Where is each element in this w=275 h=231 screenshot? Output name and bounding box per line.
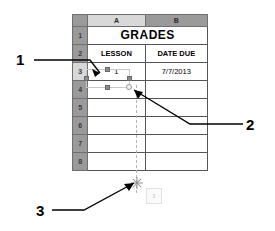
drag-ghost-preview: 1 [146,188,162,204]
cell-b3-date-value[interactable]: 7/7/2013 [145,63,207,81]
table-row: 8 [73,153,208,171]
row-header-2[interactable]: 2 [73,45,88,63]
callout-number-2: 2 [246,117,254,132]
cell-b2-date-due[interactable]: DATE DUE [145,45,207,63]
column-header-row: A B [73,15,208,27]
table-row: 2 LESSON DATE DUE [73,45,208,63]
cell-b4[interactable] [145,81,207,99]
callout-number-3: 3 [36,203,44,218]
cell-a2-lesson[interactable]: LESSON [88,45,145,63]
table-row: 7 [73,135,208,153]
table-row: 4 [73,81,208,99]
cell-b7[interactable] [145,135,207,153]
leader-line-3 [52,183,134,210]
cell-b8[interactable] [145,153,207,171]
row-header-7[interactable]: 7 [73,135,88,153]
table-row: 1 GRADES [73,27,208,45]
cell-a3-lesson-value[interactable]: 1 [88,63,145,81]
column-header-a[interactable]: A [88,15,145,27]
illustration-canvas: A B 1 GRADES 2 LESSON DATE DUE 3 1 7/7/2… [0,0,275,231]
row-header-5[interactable]: 5 [73,99,88,117]
table-row: 3 1 7/7/2013 [73,63,208,81]
row-header-1[interactable]: 1 [73,27,88,45]
cell-a1-title[interactable]: GRADES [88,27,208,45]
table-row: 6 [73,117,208,135]
select-all-corner[interactable] [73,15,88,27]
cell-b5[interactable] [145,99,207,117]
row-header-6[interactable]: 6 [73,117,88,135]
spreadsheet-grid[interactable]: A B 1 GRADES 2 LESSON DATE DUE 3 1 7/7/2… [72,14,208,171]
row-header-4[interactable]: 4 [73,81,88,99]
cell-b6[interactable] [145,117,207,135]
row-header-8[interactable]: 8 [73,153,88,171]
column-header-b[interactable]: B [145,15,207,27]
callout-number-1: 1 [16,52,24,67]
asterisk-insert-marker-icon[interactable] [130,176,143,189]
table-row: 5 [73,99,208,117]
row-header-3[interactable]: 3 [73,63,88,81]
